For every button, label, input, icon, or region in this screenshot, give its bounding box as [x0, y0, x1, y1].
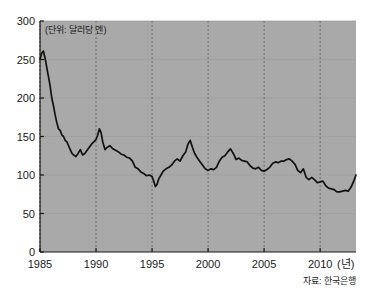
y-tick-label-0: 0	[29, 246, 35, 258]
x-tick-label-1990: 1990	[84, 258, 108, 270]
y-tick-label-200: 200	[17, 92, 35, 104]
x-tick-label-2005: 2005	[252, 258, 276, 270]
source-note-label: 자료: 한국은행	[303, 275, 356, 286]
y-tick-label-150: 150	[17, 131, 35, 143]
exchange-rate-line-chart: 050100150200250300 198519901995200020052…	[0, 0, 383, 291]
chart-figure: 050100150200250300 198519901995200020052…	[0, 0, 383, 291]
x-tick-label-2000: 2000	[196, 258, 220, 270]
x-tick-label-1995: 1995	[140, 258, 164, 270]
x-axis-unit-label: (년)	[337, 258, 354, 270]
y-tick-label-100: 100	[17, 169, 35, 181]
y-tick-label-300: 300	[17, 15, 35, 27]
unit-note-label: (단위: 달러당 엔)	[45, 24, 107, 35]
y-tick-label-250: 250	[17, 54, 35, 66]
y-tick-label-50: 50	[23, 208, 35, 220]
x-tick-label-2010: 2010	[308, 258, 332, 270]
x-tick-label-1985: 1985	[28, 258, 52, 270]
